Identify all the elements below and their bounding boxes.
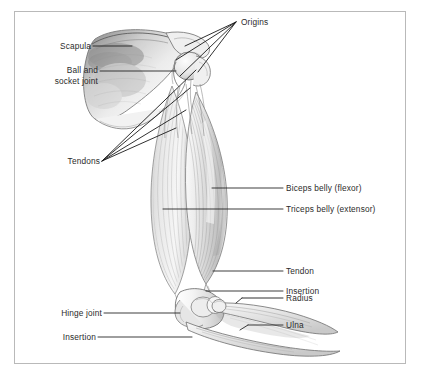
label-tendons: Tendons bbox=[40, 156, 100, 167]
label-hinge-joint: Hinge joint bbox=[20, 308, 102, 319]
label-radius: Radius bbox=[286, 293, 313, 304]
anatomy-figure: Scapula Ball and socket joint Tendons Or… bbox=[0, 0, 422, 379]
label-insertion-left: Insertion bbox=[20, 332, 96, 343]
label-scapula: Scapula bbox=[18, 41, 91, 52]
label-ball-and-socket-joint-line2: socket joint bbox=[14, 76, 98, 87]
label-ball-and-socket-joint-line1: Ball and bbox=[18, 65, 98, 76]
label-layer: Scapula Ball and socket joint Tendons Or… bbox=[0, 0, 422, 379]
label-biceps-belly: Biceps belly (flexor) bbox=[286, 183, 362, 194]
label-origins: Origins bbox=[241, 17, 268, 28]
label-ulna: Ulna bbox=[286, 320, 304, 331]
label-triceps-belly: Triceps belly (extensor) bbox=[286, 204, 376, 215]
label-tendon: Tendon bbox=[286, 266, 314, 277]
